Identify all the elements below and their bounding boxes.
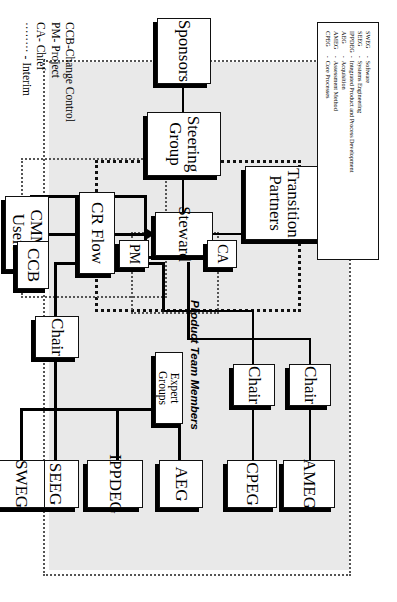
key-line-0: CCB-Change Control [63, 22, 77, 232]
node-sweg[interactable]: SWEG [0, 460, 45, 508]
node-chair-ameg-label: Chair [301, 364, 319, 406]
node-pm-label: PM [127, 242, 142, 266]
node-steering-group-label: Steering Group [166, 113, 202, 175]
legend-desc: Acquisition [340, 61, 348, 176]
node-transition-partners-label-2: Partners [266, 173, 284, 233]
key-line-2: CA- Chief [34, 22, 48, 232]
connector-chair3-in [54, 262, 57, 316]
node-chair-cpeg-label: Chair [245, 364, 263, 406]
node-aeg-label: AEG [172, 465, 190, 504]
key-line-3: ········ - Interim [20, 22, 34, 232]
node-cr-flow[interactable]: CR Flow [79, 192, 115, 274]
legend-desc: Integrated Product and Process Developme… [348, 61, 356, 176]
node-ccb-label: CCB [24, 246, 42, 284]
node-expert-groups-label: Expert Groups [157, 353, 181, 423]
node-chair-expert-groups-label: Chair [48, 316, 66, 358]
node-cpeg[interactable]: CPEG [227, 460, 277, 508]
key-line-1: PM- Project [48, 22, 62, 232]
node-sweg-label: SWEG [12, 458, 30, 510]
node-ippdeg[interactable]: IPPDEG [87, 460, 143, 508]
legend-abbr: AMEG [332, 31, 340, 56]
node-ameg-label: AMEG [300, 457, 318, 511]
node-chair-ameg[interactable]: Chair [289, 364, 331, 406]
connector-chair2-cpeg [252, 406, 254, 460]
legend-row: SEEG-Systems Engineering [356, 31, 364, 175]
node-transition-partners[interactable]: Transition Partners [245, 166, 323, 240]
legend-row: AMEG-Assessment Method [332, 31, 340, 175]
abbreviation-key: CCB-Change Control PM- Project CA- Chief… [20, 22, 78, 232]
legend-abbr: IPPDEG [348, 31, 356, 56]
node-aeg[interactable]: AEG [159, 460, 203, 508]
legend-abbr: SWEG [364, 31, 372, 56]
legend-row: CPEG-Core Processes [324, 31, 332, 175]
node-ccb[interactable]: CCB [17, 241, 49, 289]
node-sponsors[interactable]: Sponsors [157, 18, 211, 84]
connector-riser-chair1 [189, 338, 311, 340]
org-chart-diagram: Sponsors Steering Group Steward CA PM Tr… [0, 0, 397, 602]
legend-row: IPPDEG-Integrated Product and Process De… [348, 31, 356, 175]
node-ameg[interactable]: AMEG [283, 460, 335, 508]
node-ippdeg-label: IPPDEG [106, 452, 124, 516]
node-chair-expert-groups[interactable]: Chair [35, 316, 79, 358]
node-expert-groups[interactable]: Expert Groups [155, 352, 183, 424]
connector-bus-seeg [54, 408, 57, 460]
connector-bus-sweg [20, 408, 23, 460]
legend-desc: Assessment Method [332, 61, 340, 176]
legend-abbr: AEG [340, 31, 348, 56]
node-ca-label: CA [215, 242, 230, 265]
legend-desc: Software [364, 61, 372, 176]
legend-desc: Systems Engineering [356, 61, 364, 176]
node-chair-cpeg[interactable]: Chair [233, 364, 275, 406]
connector-riser-chair2 [164, 310, 254, 312]
connector-chair3-bus [54, 358, 57, 410]
node-transition-partners-label-1: Transition [284, 166, 302, 239]
legend-table: SWEG-SoftwareSEEG-Systems EngineeringIPP… [324, 31, 372, 175]
arrowhead-steward [147, 229, 155, 239]
legend-abbreviations-box: SWEG-SoftwareSEEG-Systems EngineeringIPP… [317, 22, 379, 260]
node-pm[interactable]: PM [119, 240, 149, 268]
product-team-members-label: Product Team Members [189, 300, 201, 430]
node-steering-group[interactable]: Steering Group [147, 112, 221, 176]
connector-chair2-in [252, 310, 254, 364]
node-cpeg-label: CPEG [243, 460, 261, 507]
legend-desc: Core Processes [324, 61, 332, 176]
node-steward-label: Steward [175, 204, 193, 264]
connector-chair1-in [309, 338, 311, 364]
legend-abbr: CPEG [324, 31, 332, 56]
legend-abbr: SEEG [356, 31, 364, 56]
connector-sponsors-steering [182, 84, 184, 114]
node-seeg-label: SEEG [46, 461, 64, 508]
connector-steward-right-2 [162, 262, 165, 310]
legend-row: SWEG-Software [364, 31, 372, 175]
node-ca[interactable]: CA [207, 240, 237, 268]
connector-chair1-ameg [309, 406, 311, 460]
node-steward[interactable]: Steward [155, 212, 213, 256]
node-sponsors-label: Sponsors [175, 18, 193, 84]
legend-row: AEG-Acquisition [340, 31, 348, 175]
connector-cmmiusers-crflow [49, 233, 79, 236]
node-cr-flow-label: CR Flow [88, 200, 106, 266]
